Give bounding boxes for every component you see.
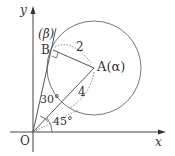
length-2-brace [55,45,91,63]
origin-label: O [20,135,30,147]
right-angle-mark [52,52,58,58]
point-B-label: B [41,44,50,56]
complex-plane-diagram: y x O (β) B A(α) 2 4 30° 45° [0,0,175,156]
beta-label: (β) [38,28,54,40]
angle-AOB-label: 30° [40,94,60,105]
segment-AB [53,50,94,68]
y-axis-label: y [20,4,27,16]
x-axis-label: x [155,136,162,148]
point-A-label: A(α) [97,60,125,73]
x-axis-arrow-icon [158,130,166,135]
length-AB-label: 2 [76,41,84,53]
angle-xOA-label: 45° [53,116,73,127]
y-axis-arrow-icon [31,6,36,14]
diagram-graphics [0,0,175,156]
length-OA-label: 4 [78,86,86,98]
